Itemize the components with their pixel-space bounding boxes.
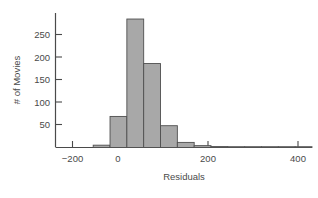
y-tick-label-200: 200 <box>34 52 50 63</box>
histogram-bar <box>211 147 228 148</box>
histogram-bar <box>262 147 279 148</box>
histogram-bar <box>93 145 110 147</box>
histogram-bar <box>110 116 127 147</box>
y-tick-label-100: 100 <box>34 97 50 108</box>
y-axis-tick-labels: 50 100 150 200 250 <box>34 29 50 130</box>
histogram-bar <box>228 147 245 148</box>
x-tick-label-neg200: −200 <box>62 153 83 164</box>
chart-canvas: 50 100 150 200 250 −200 0 200 400 Residu… <box>0 0 318 198</box>
histogram-bar <box>194 146 211 148</box>
x-tick-label-400: 400 <box>290 153 306 164</box>
histogram-chart: 50 100 150 200 250 −200 0 200 400 Residu… <box>0 0 318 198</box>
histogram-bar <box>161 126 178 148</box>
histogram-bars <box>93 19 312 147</box>
histogram-bar <box>278 147 295 148</box>
y-tick-label-150: 150 <box>34 74 50 85</box>
x-tick-label-0: 0 <box>115 153 120 164</box>
histogram-bar <box>144 64 161 148</box>
histogram-bar <box>127 19 144 147</box>
y-axis-title: # of Movies <box>11 55 22 104</box>
y-tick-label-250: 250 <box>34 29 50 40</box>
histogram-bar <box>177 142 194 147</box>
x-axis-tick-labels: −200 0 200 400 <box>62 153 306 164</box>
histogram-bar <box>295 147 312 148</box>
histogram-bar <box>245 147 262 148</box>
y-tick-label-50: 50 <box>39 119 50 130</box>
x-axis-title: Residuals <box>163 171 205 182</box>
y-axis-ticks <box>56 35 63 125</box>
x-tick-label-200: 200 <box>200 153 216 164</box>
